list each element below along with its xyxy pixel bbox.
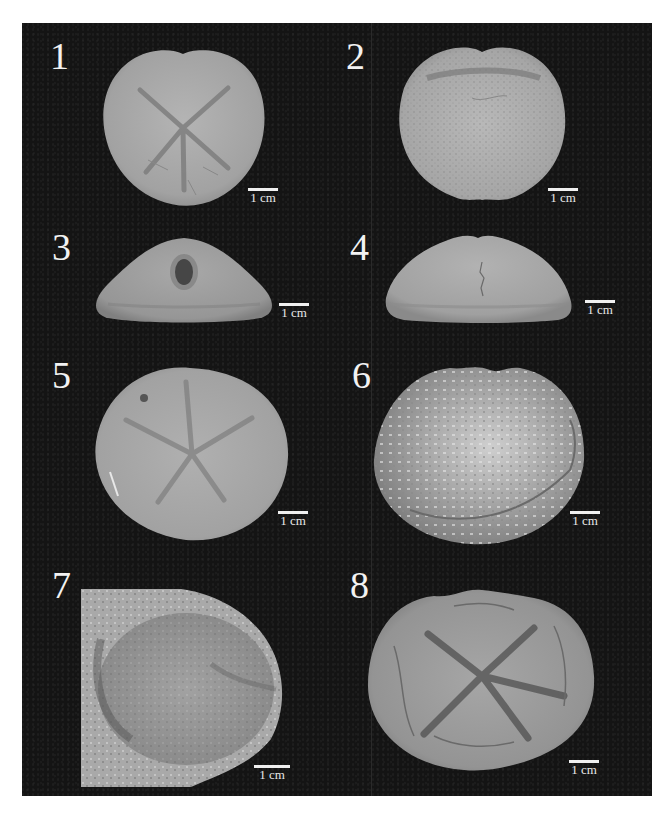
panel-5-number: 5 <box>52 356 71 394</box>
scale-bar-label: 1 cm <box>246 191 280 205</box>
panel-3-specimen-image <box>88 234 280 326</box>
panel-7-number: 7 <box>52 566 71 604</box>
scale-bar-label: 1 cm <box>252 768 292 782</box>
panel-1-specimen-image <box>88 40 278 210</box>
panel-6-specimen-image <box>370 360 590 550</box>
scale-bar-label: 1 cm <box>276 514 310 528</box>
panel-2-number: 2 <box>346 37 365 75</box>
panel-7-specimen-image <box>81 589 287 787</box>
panel-2-specimen-image <box>382 38 582 208</box>
panel-3-number: 3 <box>52 228 71 266</box>
panel-1-scale-bar: 1 cm <box>246 188 280 205</box>
panel-3-scale-bar: 1 cm <box>277 303 311 320</box>
panel-8-specimen-image <box>364 586 600 772</box>
panel-6-number: 6 <box>352 356 371 394</box>
scale-bar-label: 1 cm <box>546 191 580 205</box>
panel-7-scale-bar: 1 cm <box>252 765 292 782</box>
scale-bar-label: 1 cm <box>568 514 602 528</box>
panel-5-specimen-image <box>86 362 296 544</box>
panel-6-scale-bar: 1 cm <box>568 511 602 528</box>
scale-bar-label: 1 cm <box>277 306 311 320</box>
panel-4-specimen-image <box>378 232 578 324</box>
scale-bar-label: 1 cm <box>583 303 617 317</box>
panel-8-scale-bar: 1 cm <box>567 760 601 777</box>
panel-4-number: 4 <box>350 228 369 266</box>
panel-5-scale-bar: 1 cm <box>276 511 310 528</box>
panel-2-scale-bar: 1 cm <box>546 188 580 205</box>
scale-bar-label: 1 cm <box>567 763 601 777</box>
panel-4-scale-bar: 1 cm <box>583 300 617 317</box>
panel-1-number: 1 <box>50 37 69 75</box>
